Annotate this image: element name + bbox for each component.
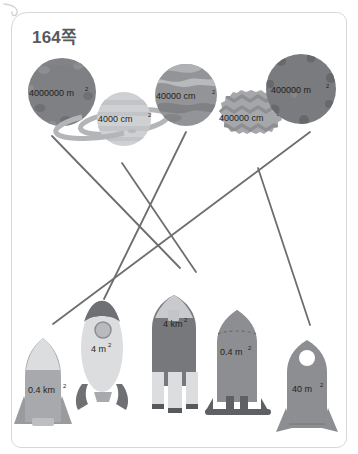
rocket-4-km2[interactable]: 4 km 2 — [152, 295, 198, 413]
planet-5-label: 400000 m — [271, 85, 311, 95]
rocket-3-booster-3 — [186, 372, 198, 406]
page-title: 164쪽 — [32, 23, 77, 48]
rocket-4-nozzle-1 — [226, 396, 234, 410]
rocket-3-label: 4 km — [163, 319, 183, 329]
rocket-2-nozzle — [94, 392, 112, 402]
worksheet-screenshot: 164쪽 — [0, 0, 358, 454]
rocket-3-flame-3 — [186, 404, 198, 409]
rocket-3-booster-2 — [168, 372, 182, 410]
planet-4-label: 400000 cm — [219, 113, 264, 123]
rocket-5-window-icon — [299, 350, 315, 366]
rocket-4-label: 0.4 m — [220, 347, 243, 357]
rocket-4-nozzle-2 — [240, 396, 248, 410]
rocket-3-booster-1 — [152, 372, 164, 406]
rocket-2-porthole-icon — [95, 322, 111, 338]
rocket-5-label: 40 m — [292, 384, 312, 394]
rocket-1-label: 0.4 km — [28, 385, 55, 395]
rocket-3-flame-2 — [168, 408, 182, 413]
rocket-4-pad — [205, 409, 271, 415]
planet-1-label: 4000000 m — [29, 88, 74, 98]
planet-3-label: 40000 cm — [156, 91, 196, 101]
rocket-1-base — [32, 418, 54, 426]
page-corner-curl-icon — [2, 2, 24, 28]
rocket-3-flame-1 — [152, 404, 164, 409]
rocket-2-label: 4 m — [91, 344, 106, 354]
planet-2-label: 4000 cm — [98, 114, 133, 124]
